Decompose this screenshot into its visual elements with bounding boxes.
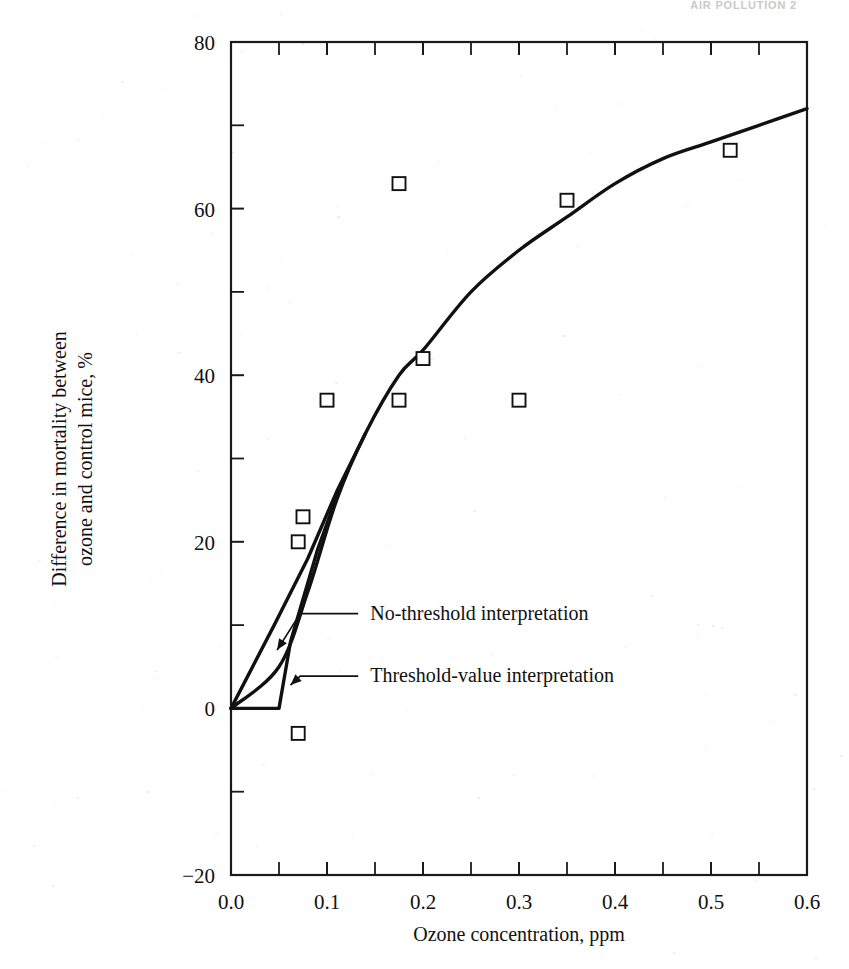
- paper-speck: [129, 254, 132, 256]
- paper-speck: [371, 773, 372, 775]
- x-tick-label: 0.2: [410, 890, 436, 914]
- x-tick-label: 0.3: [506, 890, 532, 914]
- paper-speck: [142, 709, 145, 710]
- paper-speck: [712, 625, 714, 627]
- paper-speck: [543, 578, 545, 579]
- paper-speck: [3, 790, 4, 792]
- data-point-marker: [393, 177, 406, 190]
- paper-speck: [369, 774, 370, 775]
- annotation-arrowhead-no-threshold: [277, 638, 287, 650]
- paper-speck: [241, 51, 244, 52]
- paper-speck: [767, 456, 769, 457]
- annotation-label-threshold-value: Threshold-value interpretation: [370, 664, 614, 687]
- paper-speck: [46, 551, 47, 553]
- paper-speck: [705, 693, 706, 695]
- paper-speck: [446, 251, 447, 253]
- paper-speck: [755, 880, 757, 881]
- paper-speck: [308, 746, 309, 748]
- paper-speck: [178, 352, 181, 354]
- data-point-marker: [513, 394, 526, 407]
- paper-speck: [772, 721, 774, 722]
- paper-speck: [664, 497, 667, 498]
- paper-speck: [555, 108, 558, 109]
- y-tick-label: 60: [194, 198, 215, 222]
- paper-speck: [52, 885, 54, 887]
- paper-speck: [697, 624, 699, 626]
- paper-speck: [335, 382, 338, 384]
- paper-speck: [38, 560, 41, 561]
- paper-speckle: [3, 14, 847, 960]
- paper-speck: [53, 327, 54, 329]
- paper-speck: [741, 485, 742, 487]
- paper-speck: [176, 283, 178, 284]
- paper-speck: [705, 748, 708, 749]
- paper-speck: [647, 803, 648, 804]
- paper-speck: [352, 837, 353, 839]
- y-axis-tick-labels: −20020406080: [182, 31, 215, 888]
- paper-speck: [121, 81, 124, 83]
- paper-speck: [738, 290, 740, 291]
- paper-speck: [473, 510, 476, 512]
- data-point-marker: [561, 194, 574, 207]
- paper-speck: [55, 656, 58, 657]
- paper-speck: [700, 367, 702, 368]
- paper-speck: [197, 15, 199, 17]
- data-point-marker: [724, 144, 737, 157]
- paper-speck: [464, 437, 466, 438]
- paper-speck: [603, 320, 604, 321]
- paper-speck: [353, 690, 355, 691]
- paper-speck: [513, 774, 515, 776]
- paper-speck: [327, 639, 330, 640]
- annotation-label-no-threshold: No-threshold interpretation: [370, 602, 588, 625]
- paper-speck: [290, 350, 293, 351]
- paper-speck: [280, 260, 282, 261]
- y-axis-title-line2: ozone and control mice, %: [74, 352, 96, 566]
- paper-speck: [823, 892, 824, 894]
- paper-speck: [577, 246, 580, 247]
- paper-speck: [267, 287, 269, 289]
- y-tick-label: −20: [182, 864, 215, 888]
- data-point-marker: [292, 727, 305, 740]
- paper-speck: [337, 205, 339, 206]
- paper-speck: [673, 952, 675, 954]
- paper-speck: [669, 828, 670, 829]
- y-tick-label: 40: [194, 364, 215, 388]
- x-tick-label: 0.1: [314, 890, 340, 914]
- paper-speck: [215, 833, 218, 835]
- data-point-markers: [292, 144, 737, 740]
- paper-speck: [227, 18, 228, 20]
- y-axis-title-line1: Difference in mortality between: [48, 331, 71, 587]
- paper-speck: [477, 797, 480, 799]
- paper-speck: [711, 834, 714, 836]
- paper-speck: [136, 334, 138, 336]
- paper-speck: [592, 775, 595, 777]
- paper-speck: [690, 610, 693, 611]
- paper-speck: [406, 709, 408, 710]
- paper-speck: [585, 172, 586, 173]
- paper-speck: [640, 763, 641, 764]
- paper-speck: [655, 37, 656, 39]
- paper-speck: [302, 43, 304, 45]
- paper-speck: [331, 200, 333, 201]
- axis-ticks: [231, 42, 807, 875]
- y-tick-label: 0: [205, 697, 216, 721]
- y-tick-label: 80: [194, 31, 215, 55]
- paper-speck: [846, 619, 847, 620]
- x-tick-label: 0.0: [218, 890, 244, 914]
- data-point-marker: [393, 394, 406, 407]
- plot-border: [231, 42, 807, 875]
- paper-speck: [437, 161, 438, 163]
- paper-speck: [77, 797, 79, 799]
- paper-speck: [33, 845, 35, 847]
- paper-speck: [488, 725, 491, 726]
- paper-speck: [640, 29, 643, 30]
- paper-speck: [150, 576, 151, 577]
- paper-speck: [610, 547, 611, 549]
- paper-speck: [163, 89, 166, 90]
- paper-speck: [147, 873, 148, 874]
- paper-speck: [155, 671, 158, 672]
- paper-speck: [55, 606, 56, 607]
- paper-speck: [492, 653, 494, 655]
- paper-speck: [240, 333, 242, 335]
- paper-speck: [697, 633, 698, 635]
